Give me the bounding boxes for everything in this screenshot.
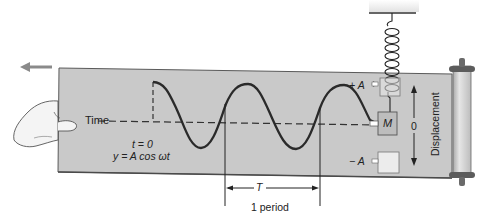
period-label: 1 period: [251, 202, 289, 213]
displacement-label: Displacement: [430, 84, 441, 164]
t-zero-label: t = 0: [132, 139, 153, 150]
period-symbol-label: T: [256, 182, 262, 193]
equation-label: y = A cos ωt: [113, 151, 170, 162]
oscillation-diagram: Time t = 0 y = A cos ωt + A M − A 0 Disp…: [0, 0, 486, 220]
minus-amplitude-marker: [378, 152, 399, 173]
diagram-canvas: [0, 0, 486, 220]
minus-amplitude-label: − A: [349, 156, 365, 167]
time-axis-label: Time: [85, 115, 109, 126]
mass-label: M: [383, 118, 392, 129]
ceiling-support: [369, 0, 419, 12]
plus-amplitude-marker: [380, 78, 400, 96]
paper-roller-icon: [449, 58, 475, 186]
paper-motion-arrow-icon: [20, 62, 52, 72]
plus-amplitude-label: + A: [349, 80, 365, 91]
zero-label: 0: [411, 120, 417, 133]
